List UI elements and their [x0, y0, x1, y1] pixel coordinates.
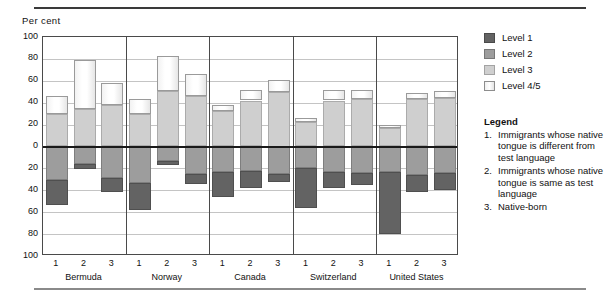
x-axis-tick: 2	[156, 258, 178, 268]
bar-segment-l2	[101, 147, 123, 179]
bar-segment-l2	[379, 147, 401, 172]
legend-key: Level 4/5	[484, 79, 602, 95]
bar-segment-l1	[212, 172, 234, 197]
bar-segment-l2	[295, 147, 317, 169]
group-label: Switzerland	[292, 272, 375, 283]
x-axis-tick: 3	[433, 258, 455, 268]
y-axis-tick: 20	[10, 163, 38, 172]
legend-note-text: Native-born	[498, 201, 604, 212]
x-axis-tick: 1	[128, 258, 150, 268]
legend-key-label: Level 1	[502, 31, 533, 45]
y-axis-tick: 80	[10, 229, 38, 238]
x-axis-group-labels: BermudaNorwayCanadaSwitzerlandUnited Sta…	[42, 272, 458, 285]
x-axis-tick: 1	[211, 258, 233, 268]
bar-segment-l45	[240, 90, 262, 101]
group-label: Norway	[125, 272, 208, 283]
bar-segment-l1	[351, 173, 373, 185]
bar-segment-l3	[212, 111, 234, 146]
bar-segment-l3	[74, 109, 96, 146]
legend-key-label: Level 2	[502, 47, 533, 61]
legend-swatch-icon	[484, 49, 495, 59]
zero-baseline	[43, 146, 457, 148]
bar-segment-l3	[434, 98, 456, 146]
x-axis-tick-labels: 123123123123123	[42, 258, 458, 270]
bar-segment-l45	[185, 74, 207, 96]
plot-area	[42, 36, 458, 255]
bar-segment-l2	[323, 147, 345, 172]
y-axis-tick: 60	[10, 75, 38, 84]
x-axis-tick: 3	[100, 258, 122, 268]
bar-segment-l1	[434, 173, 456, 191]
bar-segment-l2	[185, 147, 207, 174]
bar-segment-l3	[406, 99, 428, 146]
x-axis-tick: 1	[45, 258, 67, 268]
legend-swatch-icon	[484, 81, 495, 91]
bar-segment-l1	[157, 161, 179, 165]
bar-segment-l2	[157, 147, 179, 161]
group-label: United States	[375, 272, 458, 283]
bar-segment-l45	[379, 125, 401, 128]
x-axis-tick: 3	[184, 258, 206, 268]
legend-key: Level 2	[484, 47, 602, 63]
legend-swatch-icon	[484, 65, 495, 75]
bar-segment-l45	[129, 99, 151, 113]
legend-key: Level 3	[484, 63, 602, 79]
y-axis-tick: 60	[10, 207, 38, 216]
bar-segment-l2	[46, 147, 68, 181]
bottom-rule	[34, 288, 586, 290]
legend-key-label: Level 3	[502, 63, 533, 77]
x-axis-tick: 2	[239, 258, 261, 268]
legend-swatches: Level 1Level 2Level 3Level 4/5	[484, 31, 602, 95]
bar-segment-l45	[157, 56, 179, 91]
x-axis-tick: 2	[73, 258, 95, 268]
bar-segment-l3	[351, 99, 373, 146]
bar-segment-l3	[240, 101, 262, 147]
legend-key-label: Level 4/5	[502, 79, 541, 93]
bar-segment-l2	[240, 147, 262, 171]
y-axis-tick: 80	[10, 53, 38, 62]
y-axis-tick: 40	[10, 97, 38, 106]
chart-figure: Per cent 10080604020020406080100 1231231…	[0, 0, 604, 302]
bar-segment-l1	[323, 172, 345, 188]
bar-segment-l45	[406, 93, 428, 100]
bar-segment-l1	[268, 174, 290, 182]
y-axis-tick: 100	[10, 251, 38, 260]
legend-note-text: Immigrants whose native tongue is same a…	[498, 165, 604, 199]
bar-segment-l45	[351, 90, 373, 100]
bar-segment-l45	[74, 60, 96, 109]
legend-swatch-icon	[484, 33, 495, 43]
x-axis-tick: 3	[267, 258, 289, 268]
bar-segment-l2	[74, 147, 96, 165]
bar-segment-l45	[295, 118, 317, 122]
bar-segment-l3	[157, 91, 179, 147]
legend-note-number: 1.	[484, 129, 492, 140]
legend-key: Level 1	[484, 31, 602, 47]
top-rule	[34, 7, 586, 9]
x-axis-tick: 1	[294, 258, 316, 268]
bar-segment-l3	[295, 122, 317, 146]
bar-segment-l45	[434, 91, 456, 99]
legend-note-number: 3.	[484, 201, 492, 212]
bar-segment-l45	[212, 105, 234, 112]
legend-note-number: 2.	[484, 165, 492, 176]
y-axis-unit-label: Per cent	[22, 15, 61, 26]
x-axis-tick: 1	[378, 258, 400, 268]
x-axis-tick: 3	[350, 258, 372, 268]
bar-segment-l45	[323, 90, 345, 101]
bar-segment-l3	[129, 114, 151, 147]
bar-segment-l2	[351, 147, 373, 173]
bar-segment-l3	[379, 128, 401, 147]
y-axis-tick: 20	[10, 119, 38, 128]
x-axis-tick: 2	[405, 258, 427, 268]
bar-segment-l3	[185, 96, 207, 146]
bar-segment-l45	[101, 83, 123, 105]
legend-note: 2.Immigrants whose native tongue is same…	[484, 165, 604, 199]
bar-segment-l3	[101, 105, 123, 147]
x-axis-tick: 2	[322, 258, 344, 268]
bar-segment-l1	[185, 174, 207, 184]
bar-segment-l2	[268, 147, 290, 174]
bar-segment-l1	[74, 164, 96, 169]
bar-segment-l1	[406, 175, 428, 193]
group-label: Bermuda	[42, 272, 125, 283]
bar-segment-l2	[406, 147, 428, 175]
